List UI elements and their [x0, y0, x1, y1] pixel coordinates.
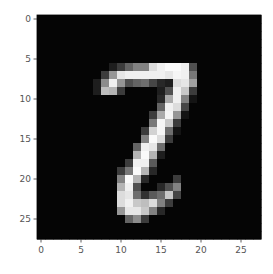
pixel — [37, 215, 46, 224]
pixel — [133, 199, 142, 208]
pixel — [101, 143, 110, 152]
pixel — [53, 31, 62, 40]
pixel — [53, 175, 62, 184]
pixel — [189, 23, 198, 32]
pixel — [133, 63, 142, 72]
pixel — [93, 87, 102, 96]
pixel — [197, 47, 206, 56]
pixel — [253, 15, 262, 24]
pixel — [69, 55, 78, 64]
pixel — [93, 23, 102, 32]
pixel — [85, 151, 94, 160]
pixel — [245, 39, 254, 48]
pixel — [93, 55, 102, 64]
pixel — [109, 103, 118, 112]
pixel — [37, 207, 46, 216]
pixel — [101, 71, 110, 80]
pixel — [85, 231, 94, 240]
pixel — [213, 127, 222, 136]
pixel — [189, 215, 198, 224]
pixel — [173, 135, 182, 144]
pixel — [237, 191, 246, 200]
pixel — [45, 191, 54, 200]
pixel — [101, 47, 110, 56]
pixel — [149, 119, 158, 128]
x-tick-label: 20 — [195, 245, 207, 255]
pixel — [45, 103, 54, 112]
pixel — [173, 127, 182, 136]
pixel — [133, 87, 142, 96]
pixel — [237, 143, 246, 152]
pixel — [61, 207, 70, 216]
pixel — [125, 95, 134, 104]
pixel — [93, 39, 102, 48]
pixel — [205, 231, 214, 240]
pixel — [45, 31, 54, 40]
pixel — [133, 183, 142, 192]
pixel — [213, 71, 222, 80]
pixel — [141, 55, 150, 64]
pixel — [237, 183, 246, 192]
pixel — [109, 175, 118, 184]
pixel — [37, 39, 46, 48]
pixel — [69, 79, 78, 88]
pixel — [141, 231, 150, 240]
pixel — [181, 39, 190, 48]
pixel — [61, 63, 70, 72]
pixel — [205, 223, 214, 232]
pixel — [221, 223, 230, 232]
pixel — [133, 39, 142, 48]
pixel — [45, 71, 54, 80]
pixel — [253, 127, 262, 136]
pixel — [173, 103, 182, 112]
pixel — [213, 143, 222, 152]
pixel — [237, 175, 246, 184]
pixel — [181, 63, 190, 72]
pixel — [253, 215, 262, 224]
pixel — [109, 47, 118, 56]
pixel — [197, 215, 206, 224]
pixel — [213, 175, 222, 184]
pixel — [189, 15, 198, 24]
pixel — [109, 199, 118, 208]
pixel — [213, 135, 222, 144]
pixel — [173, 71, 182, 80]
pixel — [93, 95, 102, 104]
pixel — [229, 183, 238, 192]
pixel — [77, 135, 86, 144]
pixel — [69, 223, 78, 232]
pixel — [77, 199, 86, 208]
pixel — [37, 167, 46, 176]
pixel — [93, 207, 102, 216]
pixel — [197, 135, 206, 144]
pixel — [157, 111, 166, 120]
pixel — [117, 55, 126, 64]
pixel — [237, 167, 246, 176]
pixel — [37, 31, 46, 40]
pixel — [69, 143, 78, 152]
pixel — [245, 111, 254, 120]
pixel — [221, 95, 230, 104]
pixel — [117, 231, 126, 240]
pixel — [53, 111, 62, 120]
pixel — [245, 119, 254, 128]
pixel — [101, 55, 110, 64]
pixel — [93, 175, 102, 184]
pixel — [165, 87, 174, 96]
pixel — [173, 31, 182, 40]
pixel — [61, 87, 70, 96]
pixel — [253, 159, 262, 168]
pixel — [69, 63, 78, 72]
pixel — [125, 183, 134, 192]
pixel — [229, 103, 238, 112]
pixel — [189, 119, 198, 128]
pixel — [173, 87, 182, 96]
pixel — [189, 231, 198, 240]
pixel — [37, 151, 46, 160]
pixel — [165, 183, 174, 192]
pixel — [189, 71, 198, 80]
pixel — [69, 175, 78, 184]
pixel — [173, 39, 182, 48]
pixel — [117, 175, 126, 184]
pixel — [77, 167, 86, 176]
